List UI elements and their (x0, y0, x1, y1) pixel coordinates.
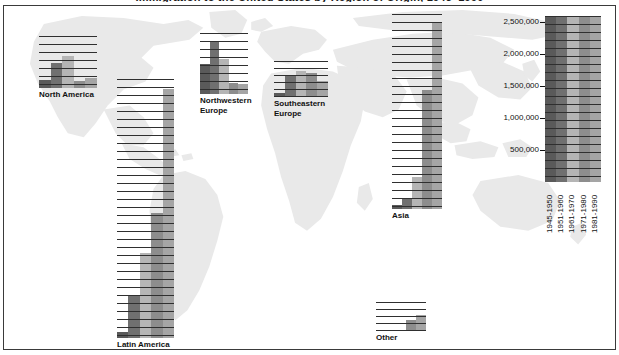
panel-label-southeastern-europe: Southeastern Europe (274, 99, 325, 118)
bar-latin-america-1951-1960 (128, 296, 139, 338)
bar-northwestern-europe-1945-1950 (200, 64, 210, 94)
bar-group-latin-america (117, 79, 174, 338)
bar-latin-america-1971-1980 (151, 213, 162, 338)
panel-other (376, 302, 426, 331)
bar-northwestern-europe-1981-1990 (238, 84, 248, 94)
panel-plot-northwestern-europe (200, 33, 248, 94)
legend-swatch-1981-1990 (590, 16, 601, 182)
panel-latin-america (117, 79, 174, 338)
bar-latin-america-1961-1970 (140, 253, 151, 338)
bar-group-southeastern-europe (274, 61, 328, 97)
panel-plot-asia (392, 14, 442, 209)
bar-asia-1971-1980 (422, 90, 432, 209)
bar-asia-1945-1950 (392, 205, 402, 209)
axis-tick-mark-1500000 (540, 86, 545, 87)
axis-tick-label-500000: 500,000 (487, 145, 539, 154)
bar-asia-1951-1960 (402, 199, 412, 210)
bar-southeastern-europe-1951-1960 (285, 75, 296, 97)
axis-tick-label-1500000: 1,500,000 (487, 81, 539, 90)
legend-swatch-1951-1960 (556, 16, 567, 182)
legend-swatch-1971-1980 (579, 16, 590, 182)
panel-asia (392, 14, 442, 209)
bar-group-other (376, 302, 426, 331)
panel-plot-other (376, 302, 426, 331)
bar-north-america-1981-1990 (85, 78, 97, 88)
bar-southeastern-europe-1961-1970 (296, 71, 307, 97)
axis-tick-label-2000000: 2,000,000 (487, 49, 539, 58)
panel-label-northwestern-europe: Northwestern Europe (200, 96, 252, 115)
page-title: Immigration to the United States by Regi… (0, 0, 619, 2)
bar-group-asia (392, 14, 442, 209)
chart-frame: North AmericaNorthwestern EuropeSoutheas… (3, 5, 616, 350)
legend-period-label-1961-1970: 1961-1970 (567, 185, 578, 233)
bar-north-america-1971-1980 (74, 81, 86, 88)
legend-swatch-1945-1950 (545, 16, 556, 182)
legend-period-label-1971-1980: 1971-1980 (579, 185, 590, 233)
bar-latin-america-1945-1950 (117, 332, 128, 338)
bar-group-northwestern-europe (200, 33, 248, 94)
axis-tick-mark-2000000 (540, 54, 545, 55)
axis-tick-label-1000000: 1,000,000 (487, 113, 539, 122)
bar-north-america-1951-1960 (51, 63, 63, 88)
figure-root: Immigration to the United States by Regi… (0, 0, 619, 355)
panel-plot-southeastern-europe (274, 61, 328, 97)
panel-label-other: Other (376, 333, 397, 343)
bar-group-north-america (39, 36, 97, 88)
axis-tick-mark-1000000 (540, 118, 545, 119)
bar-southeastern-europe-1971-1980 (306, 73, 317, 97)
panel-label-asia: Asia (392, 211, 409, 221)
axis-tick-label-2500000: 2,500,000 (487, 17, 539, 26)
panel-north-america (39, 36, 97, 88)
legend-period-label-1951-1960: 1951-1960 (556, 185, 567, 233)
legend-period-labels: 1945-19501951-19601961-19701971-19801981… (545, 185, 601, 233)
bar-southeastern-europe-1981-1990 (317, 81, 328, 97)
panel-plot-north-america (39, 36, 97, 88)
panel-northwestern-europe (200, 33, 248, 94)
bar-other-1961-1970 (396, 330, 406, 331)
bar-other-1981-1990 (416, 315, 426, 331)
bar-other-1971-1980 (406, 320, 416, 331)
legend-period-label-1945-1950: 1945-1950 (545, 185, 556, 233)
bar-north-america-1945-1950 (39, 80, 51, 88)
legend-swatch-box (545, 16, 601, 182)
bar-other-1951-1960 (386, 330, 396, 331)
legend-swatch-1961-1970 (567, 16, 578, 182)
bar-southeastern-europe-1945-1950 (274, 93, 285, 97)
bar-northwestern-europe-1961-1970 (219, 59, 229, 94)
bar-other-1945-1950 (376, 330, 386, 331)
panel-southeastern-europe (274, 61, 328, 97)
panel-plot-latin-america (117, 79, 174, 338)
axis-tick-mark-500000 (540, 150, 545, 151)
legend-swatches (545, 16, 601, 182)
bar-asia-1961-1970 (412, 177, 422, 209)
axis-tick-mark-2500000 (540, 22, 545, 23)
bar-northwestern-europe-1951-1960 (210, 42, 220, 94)
panel-label-latin-america: Latin America (117, 340, 170, 350)
bar-latin-america-1981-1990 (163, 89, 174, 338)
scale-legend: 2,500,0002,000,0001,500,0001,000,000500,… (545, 16, 601, 182)
bar-asia-1981-1990 (432, 22, 442, 210)
legend-period-label-1981-1990: 1981-1990 (590, 185, 601, 233)
bar-north-america-1961-1970 (62, 56, 74, 88)
panel-label-north-america: North America (39, 90, 94, 100)
bar-northwestern-europe-1971-1980 (229, 83, 239, 94)
